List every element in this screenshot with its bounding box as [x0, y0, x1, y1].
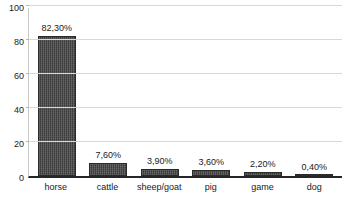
bar-chart: 020406080100 82,30%7,60%3,90%3,60%2,20%0…: [0, 0, 349, 199]
bar-value-label: 3,90%: [147, 157, 173, 166]
y-tick-label: 100: [9, 4, 24, 13]
x-tick-label: dog: [288, 180, 340, 194]
y-tick-label: 60: [14, 72, 24, 81]
bar-group: 3,90%: [134, 8, 186, 176]
y-tickmark: [26, 107, 29, 108]
x-tick-slot: sheep/goat: [133, 180, 185, 196]
y-axis: 020406080100: [0, 8, 24, 178]
bars-layer: 82,30%7,60%3,90%3,60%2,20%0,40%: [29, 8, 342, 176]
x-tick-label: pig: [185, 180, 237, 194]
x-tick-label: game: [237, 180, 289, 194]
bar: [89, 163, 127, 176]
gridline: [29, 107, 342, 108]
bar-value-label: 2,20%: [250, 160, 276, 169]
y-tickmark: [26, 73, 29, 74]
bar-group: 0,40%: [289, 8, 341, 176]
bar: [295, 174, 333, 176]
y-tick-label: 40: [14, 106, 24, 115]
bar-value-label: 3,60%: [198, 158, 224, 167]
bar-value-label: 0,40%: [301, 163, 327, 172]
x-tick-slot: cattle: [82, 180, 134, 196]
x-tick-label: cattle: [82, 180, 134, 194]
x-tick-slot: horse: [30, 180, 82, 196]
bar-group: 2,20%: [237, 8, 289, 176]
bar-value-label: 82,30%: [41, 24, 72, 33]
x-tick-slot: game: [237, 180, 289, 196]
gridline: [29, 5, 342, 6]
x-tick-label: sheep/goat: [133, 180, 185, 194]
bar-group: 82,30%: [31, 8, 83, 176]
y-tick-label: 80: [14, 38, 24, 47]
x-tick-label: horse: [30, 180, 82, 194]
bar-group: 3,60%: [186, 8, 238, 176]
bar: [192, 170, 230, 176]
y-tick-label: 0: [19, 174, 24, 183]
y-tickmark: [26, 141, 29, 142]
x-axis: horsecattlesheep/goatpiggamedog: [28, 180, 342, 196]
bar: [141, 169, 179, 176]
gridline: [29, 141, 342, 142]
y-tick-label: 20: [14, 140, 24, 149]
bar-value-label: 7,60%: [95, 151, 121, 160]
plot-area: 82,30%7,60%3,90%3,60%2,20%0,40%: [28, 8, 342, 178]
gridline: [29, 73, 342, 74]
bar: [244, 172, 282, 176]
y-tickmark: [26, 5, 29, 6]
gridline: [29, 39, 342, 40]
x-tick-slot: pig: [185, 180, 237, 196]
x-tick-slot: dog: [288, 180, 340, 196]
bar-group: 7,60%: [83, 8, 135, 176]
y-tickmark: [26, 39, 29, 40]
